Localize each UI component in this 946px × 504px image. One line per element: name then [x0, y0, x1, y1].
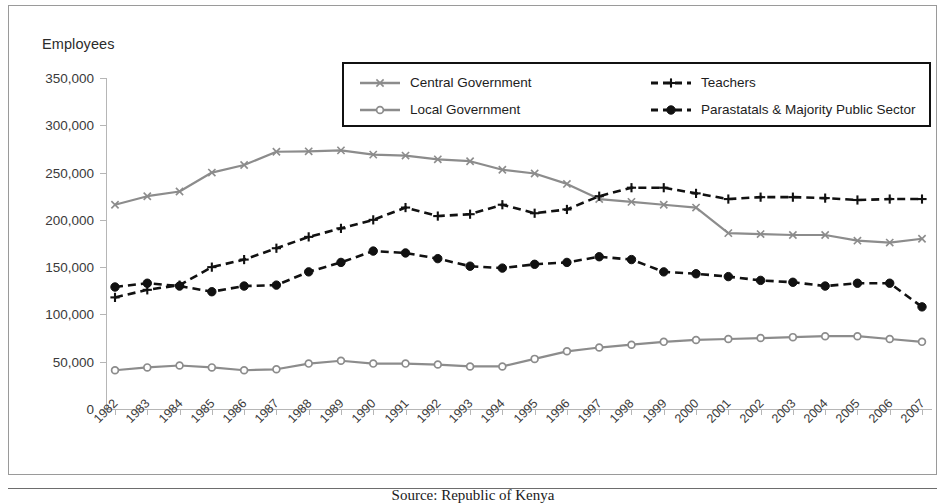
legend-entry-1[interactable]: Central Government: [358, 70, 532, 96]
plus-marker: [433, 211, 442, 220]
circle-filled-marker: [434, 254, 442, 262]
circle-open-marker: [176, 362, 183, 369]
circle-filled-marker: [240, 282, 248, 290]
circle-open-marker: [499, 363, 506, 370]
legend-entry-3[interactable]: Teachers: [649, 70, 756, 96]
circle-filled-legend-sample: [649, 102, 693, 118]
y-axis-tick-label: 300,000: [45, 118, 94, 133]
circle-open-marker: [370, 360, 377, 367]
y-axis-tick-label: 200,000: [45, 212, 94, 227]
legend-entry-4[interactable]: Parastatals & Majority Public Sector: [649, 97, 916, 123]
figure-page: Employees 350,000300,000250,000200,00015…: [0, 0, 946, 504]
plus-marker: [498, 200, 507, 209]
figure-frame: Employees 350,000300,000250,000200,00015…: [8, 5, 937, 475]
circle-open-marker: [757, 335, 764, 342]
circle-filled-marker: [853, 279, 861, 287]
circle-filled-marker: [692, 270, 700, 278]
circle-filled-marker: [627, 255, 635, 263]
plus-marker: [853, 195, 862, 204]
circle-filled-marker: [918, 303, 926, 311]
plus-marker: [336, 224, 345, 233]
plus-marker: [756, 193, 765, 202]
plus-marker: [659, 183, 668, 192]
circle-filled-marker: [401, 249, 409, 257]
circle-filled-marker: [208, 288, 216, 296]
plus-marker: [272, 244, 281, 253]
circle-filled-marker: [660, 268, 668, 276]
y-axis-tick-label: 150,000: [45, 260, 94, 275]
y-axis-tick-label: 50,000: [53, 354, 94, 369]
circle-open-marker: [822, 333, 829, 340]
plus-marker: [110, 293, 119, 302]
series-1: [111, 147, 925, 246]
legend-label: Central Government: [410, 76, 532, 90]
circle-open-marker: [919, 338, 926, 345]
plus-marker: [821, 194, 830, 203]
chart-legend: Central GovernmentLocal GovernmentTeache…: [342, 62, 931, 127]
series-4: [111, 247, 926, 311]
plus-marker: [401, 203, 410, 212]
circle-open-marker: [596, 344, 603, 351]
circle-filled-marker: [337, 258, 345, 266]
plus-legend-sample: [649, 75, 693, 91]
circle-filled-marker: [304, 268, 312, 276]
circle-filled-marker: [667, 106, 675, 114]
circle-filled-marker: [143, 279, 151, 287]
circle-filled-marker: [530, 260, 538, 268]
plus-marker: [666, 78, 675, 87]
y-axis-tick-label: 350,000: [45, 71, 94, 86]
plus-marker: [917, 194, 926, 203]
series-line: [115, 251, 922, 307]
circle-filled-marker: [369, 247, 377, 255]
circle-filled-marker: [595, 253, 603, 261]
circle-filled-marker: [886, 279, 894, 287]
plus-marker: [691, 189, 700, 198]
circle-open-legend-sample: [358, 102, 402, 118]
circle-open-marker: [531, 355, 538, 362]
legend-entry-2[interactable]: Local Government: [358, 97, 520, 123]
circle-open-marker: [886, 336, 893, 343]
x-legend-sample: [358, 75, 402, 91]
series-line: [115, 336, 922, 370]
circle-filled-marker: [756, 276, 764, 284]
circle-open-marker: [241, 367, 248, 374]
plus-marker: [885, 194, 894, 203]
y-axis-tick-label: 100,000: [45, 307, 94, 322]
y-axis-title: Employees: [42, 36, 115, 52]
series-2: [112, 333, 926, 374]
circle-open-marker: [144, 364, 151, 371]
circle-open-marker: [628, 341, 635, 348]
legend-label: Parastatals & Majority Public Sector: [701, 103, 916, 117]
plus-marker: [240, 255, 249, 264]
circle-filled-marker: [111, 283, 119, 291]
plus-marker: [530, 209, 539, 218]
circle-open-marker: [338, 357, 345, 364]
plus-marker: [788, 193, 797, 202]
circle-filled-marker: [175, 282, 183, 290]
circle-open-marker: [434, 361, 441, 368]
circle-open-marker: [564, 348, 571, 355]
legend-label: Local Government: [410, 103, 520, 117]
circle-filled-marker: [789, 278, 797, 286]
y-axis-tick-labels: 350,000300,000250,000200,000150,000100,0…: [9, 78, 94, 409]
plus-marker: [627, 183, 636, 192]
plus-marker: [465, 210, 474, 219]
plus-marker: [304, 232, 313, 241]
legend-label: Teachers: [701, 76, 756, 90]
plus-marker: [562, 205, 571, 214]
circle-open-marker: [377, 107, 384, 114]
circle-open-marker: [305, 360, 312, 367]
circle-open-marker: [273, 366, 280, 373]
circle-filled-marker: [272, 281, 280, 289]
circle-open-marker: [693, 337, 700, 344]
plus-marker: [369, 215, 378, 224]
circle-filled-marker: [466, 262, 474, 270]
series-line: [115, 188, 922, 298]
y-axis-tick-label: 250,000: [45, 165, 94, 180]
circle-open-marker: [854, 333, 861, 340]
circle-filled-marker: [563, 258, 571, 266]
figure-caption: Source: Republic of Kenya: [0, 487, 946, 504]
circle-open-marker: [789, 334, 796, 341]
plus-marker: [724, 194, 733, 203]
plot-area: [106, 78, 931, 409]
